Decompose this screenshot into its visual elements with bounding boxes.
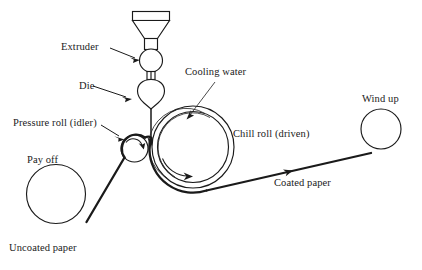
label-chill-roll: Chill roll (driven) [233,129,310,140]
extruder-die-connector [147,72,155,80]
chill-roll-group [152,106,234,188]
die-body [138,80,165,110]
hopper-neck [145,39,158,50]
pressure-roll-leader-line [101,125,119,136]
extruder-barrel-circle [140,49,163,72]
pay-off-roll-circle [27,165,86,224]
hopper-group [133,12,170,50]
die-leader-arrowhead [122,97,132,103]
label-die: Die [79,81,94,92]
label-extruder: Extruder [61,42,99,53]
label-cooling-water: Cooling water [185,67,246,78]
label-coated-paper: Coated paper [274,178,331,189]
extrusion-coating-diagram: Extruder Die Pressure roll (idler) Pay o… [0,0,422,270]
label-pay-off: Pay off [27,155,58,166]
label-uncoated-paper: Uncoated paper [9,243,77,254]
wind-up-roll-circle [361,109,401,149]
uncoated-web-group [87,158,125,223]
wind-up-roll-group [361,109,401,149]
die-leader-line [93,86,126,97]
pay-off-roll-group [27,165,86,224]
label-pressure-roll: Pressure roll (idler) [13,118,97,129]
label-wind-up: Wind up [362,94,399,105]
extruder-barrel-group [140,49,163,72]
uncoated-web-path [87,158,125,223]
chill-roll-outer-circle [152,106,234,188]
hopper-funnel [133,21,170,39]
extruder-leader-arrowhead [130,58,140,64]
hopper-top-rect [133,12,170,21]
extruder-leader-line [110,48,135,58]
die-group [138,80,165,110]
